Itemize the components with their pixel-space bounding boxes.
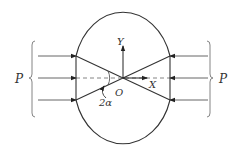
brazilian-disc-diagram: P P Y X O 2α bbox=[0, 0, 242, 145]
angle-arc bbox=[108, 71, 110, 85]
label-load-right: P bbox=[218, 72, 228, 86]
label-angle: 2α bbox=[98, 97, 112, 108]
label-load-left: P bbox=[14, 72, 24, 86]
label-axis-y: Y bbox=[117, 36, 125, 47]
left-load-arrows bbox=[38, 56, 76, 100]
right-brace bbox=[207, 41, 213, 117]
right-load-arrows bbox=[170, 56, 208, 100]
label-axis-x: X bbox=[148, 79, 157, 90]
left-brace bbox=[29, 41, 35, 117]
label-origin: O bbox=[115, 87, 123, 98]
